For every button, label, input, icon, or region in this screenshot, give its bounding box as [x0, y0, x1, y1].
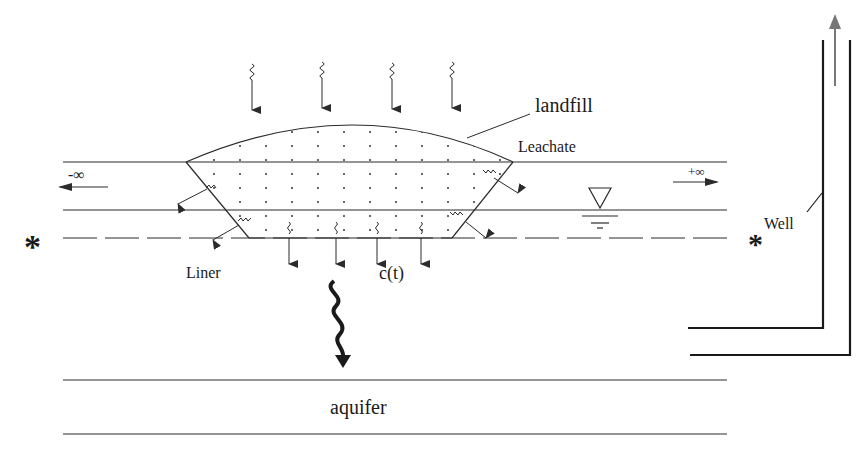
side-leak-arrow-icon: [178, 185, 216, 204]
well-flow-arrow-icon: [829, 14, 841, 86]
well-outer-wall: [690, 40, 850, 355]
landfill-leader-line: [467, 114, 530, 138]
aquifer-label: aquifer: [330, 396, 387, 419]
liner-label: Liner: [186, 264, 221, 281]
rain-arrow-icon: [390, 63, 394, 109]
rain-arrows: [250, 62, 454, 110]
well-pipe: [688, 40, 850, 355]
leachate-label: Leachate: [518, 138, 576, 155]
rain-arrow-icon: [320, 62, 324, 108]
plus-infinity-label: +∞: [688, 164, 705, 179]
rain-arrow-icon: [250, 64, 254, 110]
landfill-diagram: -∞ +∞ landfill Leachate Liner c(t) aquif…: [0, 0, 867, 461]
observation-marker-left: *: [24, 228, 41, 265]
landfill-label: landfill: [535, 94, 593, 116]
infiltration-arrow-icon: [331, 281, 351, 368]
minus-infinity-label: -∞: [68, 166, 85, 183]
landfill-body: [186, 125, 513, 238]
water-table-icon: [582, 188, 618, 228]
well-leader-line: [807, 193, 822, 212]
well-label: Well: [764, 215, 794, 232]
rain-arrow-icon: [450, 62, 454, 108]
observation-marker-right: *: [748, 227, 763, 260]
concentration-label: c(t): [379, 263, 404, 284]
